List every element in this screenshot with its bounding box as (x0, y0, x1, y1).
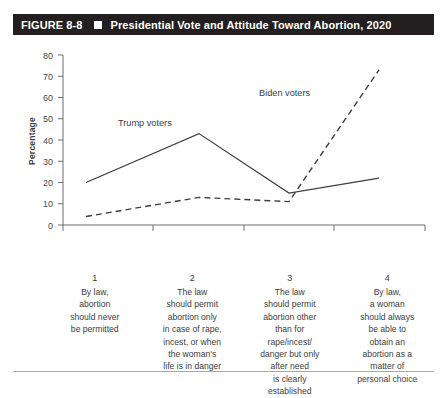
y-tick-30: 30 (43, 157, 53, 167)
series-line-trump-voters (86, 134, 379, 194)
figure-title: Presidential Vote and Attitude Toward Ab… (111, 19, 392, 31)
y-tick-20: 20 (43, 178, 53, 188)
y-axis-ticks (58, 55, 63, 225)
category-1-description: By law, abortion should never be permitt… (50, 286, 140, 336)
series-label-biden-voters: Biden voters (259, 88, 310, 98)
series-label-trump-voters: Trump voters (118, 118, 172, 128)
figure-title-bar: FIGURE 8-8 Presidential Vote and Attitud… (13, 14, 434, 35)
y-tick-0: 0 (48, 221, 53, 231)
x-axis-ticks (63, 225, 425, 231)
filled-square-icon (94, 21, 102, 29)
footer-divider (13, 371, 434, 372)
y-tick-10: 10 (43, 199, 53, 209)
y-tick-60: 60 (43, 93, 53, 103)
y-tick-80: 80 (43, 51, 53, 61)
y-tick-50: 50 (43, 114, 53, 124)
y-axis-title: Percentage (27, 101, 37, 181)
figure-number: FIGURE 8-8 (21, 19, 83, 31)
category-2-description: The law should permit abortion only in c… (148, 286, 238, 373)
source-note (13, 378, 434, 389)
y-axis-tick-labels: 80 70 60 50 40 30 20 10 0 (43, 51, 53, 231)
chart-container: Percentage 80 70 60 50 40 30 20 10 (0, 40, 447, 350)
category-4-number: 4 (343, 272, 433, 285)
category-2-number: 2 (148, 272, 238, 285)
series-line-biden-voters (86, 70, 379, 217)
line-chart: 80 70 60 50 40 30 20 10 0 Trump voters B… (0, 40, 447, 280)
y-tick-70: 70 (43, 72, 53, 82)
category-1-number: 1 (50, 272, 140, 285)
y-tick-40: 40 (43, 136, 53, 146)
category-3-number: 3 (245, 272, 335, 285)
